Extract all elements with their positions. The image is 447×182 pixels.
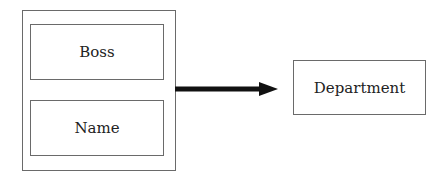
department-box: Department xyxy=(293,60,426,115)
arrow-connector xyxy=(175,80,280,100)
department-label: Department xyxy=(314,79,405,97)
name-label: Name xyxy=(74,119,119,137)
boss-field-box: Boss xyxy=(30,24,164,80)
name-field-box: Name xyxy=(30,100,164,156)
boss-label: Boss xyxy=(79,43,114,61)
